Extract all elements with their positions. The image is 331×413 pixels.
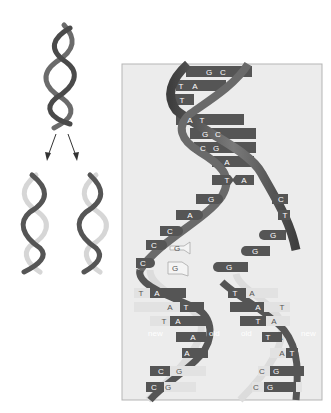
svg-text:A: A — [249, 289, 255, 298]
svg-text:G: G — [270, 231, 276, 240]
svg-text:C: C — [220, 68, 226, 77]
left-new-label: new — [148, 329, 163, 338]
svg-text:T: T — [139, 289, 144, 298]
svg-text:G: G — [208, 195, 214, 204]
svg-text:T: T — [162, 317, 167, 326]
svg-text:T: T — [256, 317, 261, 326]
svg-text:C: C — [253, 383, 259, 392]
svg-text:G: G — [206, 68, 212, 77]
svg-text:A: A — [175, 317, 181, 326]
svg-text:A: A — [184, 349, 190, 358]
replication-arrows — [45, 134, 79, 161]
svg-text:G: G — [273, 367, 279, 376]
svg-text:T: T — [233, 289, 238, 298]
svg-text:C: C — [259, 367, 265, 376]
daughter-helix-right — [79, 175, 106, 272]
svg-text:A: A — [187, 211, 193, 220]
right-new-label: new — [301, 329, 316, 338]
svg-text:T: T — [225, 176, 230, 185]
svg-text:A: A — [271, 317, 277, 326]
svg-text:C: C — [200, 144, 206, 153]
svg-text:G: G — [267, 383, 273, 392]
svg-text:A: A — [279, 349, 285, 358]
svg-text:T: T — [179, 82, 184, 91]
svg-text:T: T — [290, 349, 295, 358]
svg-text:G: G — [165, 383, 171, 392]
svg-text:T: T — [178, 333, 183, 342]
parent-helix — [46, 25, 74, 128]
svg-text:C: C — [151, 241, 157, 250]
svg-text:G: G — [213, 144, 219, 153]
svg-text:A: A — [154, 289, 160, 298]
left-old-label: old — [209, 329, 220, 338]
svg-text:C: C — [215, 130, 221, 139]
svg-text:G: G — [176, 367, 182, 376]
svg-text:T: T — [200, 349, 205, 358]
svg-text:T: T — [180, 96, 185, 105]
svg-text:A: A — [187, 116, 193, 125]
svg-text:C: C — [167, 227, 173, 236]
svg-text:A: A — [241, 176, 247, 185]
svg-text:A: A — [190, 333, 196, 342]
svg-text:G: G — [202, 130, 208, 139]
svg-text:T: T — [266, 333, 271, 342]
svg-text:C: C — [158, 367, 164, 376]
svg-text:T: T — [280, 303, 285, 312]
svg-text:A: A — [167, 303, 173, 312]
svg-text:A: A — [255, 303, 261, 312]
svg-text:A: A — [224, 158, 230, 167]
svg-text:C: C — [278, 195, 284, 204]
svg-text:T: T — [283, 211, 288, 220]
svg-text:G: G — [172, 264, 178, 273]
svg-text:G: G — [226, 263, 232, 272]
svg-text:T: T — [200, 116, 205, 125]
svg-text:C: C — [151, 383, 157, 392]
svg-text:G: G — [174, 244, 180, 253]
right-old-label: old — [241, 329, 252, 338]
svg-text:G: G — [252, 247, 258, 256]
svg-text:A: A — [192, 82, 198, 91]
svg-text:T: T — [184, 303, 189, 312]
dna-replication-diagram: G C T A T A T G C C G A T A G A C C C C … — [0, 0, 331, 413]
svg-text:A: A — [277, 333, 283, 342]
svg-text:C: C — [140, 259, 146, 268]
daughter-helix-left — [23, 175, 46, 272]
